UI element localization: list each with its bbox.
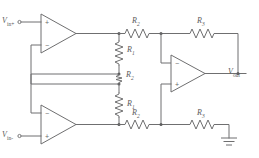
junction-dot-noninverting-input [160, 123, 163, 126]
opamp-bottom-pin-minus: − [45, 110, 49, 117]
opamp-top-pin-minus: − [45, 42, 49, 49]
opamp-output-pin-plus: + [175, 81, 179, 88]
opamp-bottom-pin-plus: + [45, 133, 49, 140]
opamp-top-pin-plus: + [45, 19, 49, 26]
resistor-r1-top-symbol [115, 40, 123, 66]
wire-opamp-noninverting-to-node [161, 84, 171, 125]
terminal-dot-vin-plus [18, 20, 21, 23]
wire-inverting-node-to-opamp [161, 34, 171, 64]
label-resistor-r2-top: R2 [132, 17, 140, 27]
circuit-diagram-canvas: Vin+ Vin- Vout R1 R2 R1 R2 R3 R2 R3 + − … [0, 0, 259, 158]
label-vout: Vout [228, 68, 240, 78]
label-resistor-r2-gain: R2 [126, 71, 134, 81]
wire-r3-bottom-to-ground [217, 125, 229, 139]
resistor-r3-bottom-symbol [188, 120, 217, 129]
label-resistor-r3-bottom: R3 [197, 109, 205, 119]
label-resistor-r2-bottom: R2 [132, 109, 140, 119]
terminal-dot-vin-minus [18, 134, 21, 137]
label-vin-plus: Vin+ [2, 17, 14, 27]
opamp-output-pin-minus: − [175, 60, 179, 67]
resistor-r2-bottom-symbol [123, 120, 152, 129]
resistor-r1-bottom-symbol [115, 92, 123, 118]
resistor-r2-top-symbol [123, 29, 152, 38]
label-resistor-r1-top: R1 [127, 46, 135, 56]
resistor-r2-gain-symbol [116, 74, 122, 84]
label-vin-minus: Vin- [2, 131, 13, 141]
label-resistor-r3-top: R3 [197, 17, 205, 27]
resistor-r3-top-symbol [188, 29, 217, 38]
ground-symbol [221, 138, 237, 145]
